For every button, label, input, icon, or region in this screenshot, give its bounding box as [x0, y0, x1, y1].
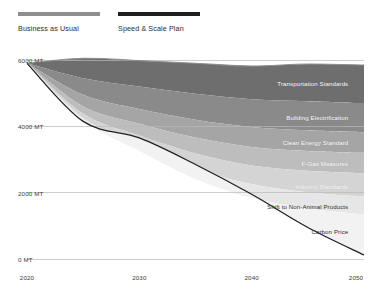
- emissions-wedge-chart: Business as Usual Speed & Scale Plan 0 M…: [0, 0, 369, 295]
- y-axis-tick-0: 0 MT: [18, 256, 33, 263]
- chart-legend: Business as Usual Speed & Scale Plan: [0, 0, 369, 44]
- band-label-clean-energy-standard: Clean Energy Standard: [283, 139, 348, 146]
- legend-label-speed-and-scale-plan: Speed & Scale Plan: [118, 24, 200, 33]
- legend-item-business-as-usual: Business as Usual: [18, 12, 100, 33]
- band-label-carbon-price: Carbon Price: [312, 228, 349, 235]
- plot-area: 0 MT2000 MT4000 MT6000 MT 20202030204020…: [0, 44, 369, 295]
- band-label-shift-to-non-animal-products: Shift to Non-Animal Products: [267, 202, 348, 209]
- y-axis-tick-4000: 4000 MT: [18, 123, 43, 130]
- y-axis-tick-2000: 2000 MT: [18, 189, 43, 196]
- band-label-transportation-standards: Transportation Standards: [277, 80, 348, 87]
- legend-swatch-business-as-usual: [18, 12, 100, 16]
- x-axis-tick-2020: 2020: [20, 274, 34, 281]
- x-axis-tick-2040: 2040: [244, 274, 258, 281]
- y-axis-tick-6000: 6000 MT: [18, 57, 43, 64]
- x-axis-tick-2050: 2050: [349, 274, 363, 281]
- legend-item-speed-and-scale-plan: Speed & Scale Plan: [118, 12, 200, 33]
- x-axis-tick-2030: 2030: [132, 274, 146, 281]
- band-label-building-electrification: Building Electrification: [286, 114, 348, 121]
- legend-label-business-as-usual: Business as Usual: [18, 24, 100, 33]
- band-label-industry-standards: Industry Standards: [295, 182, 348, 189]
- legend-swatch-speed-and-scale-plan: [118, 12, 200, 16]
- band-label-f-gas-measures: F-Gas Measures: [301, 159, 348, 166]
